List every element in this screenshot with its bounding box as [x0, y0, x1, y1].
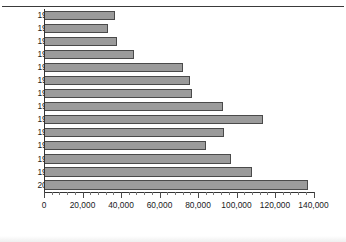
bar-row: 1994–95: [0, 100, 346, 113]
x-tick-major: [160, 192, 161, 198]
x-tick-minor: [90, 192, 91, 195]
x-tick-major: [237, 192, 238, 198]
x-tick-minor: [113, 192, 114, 195]
x-tick-major: [83, 192, 84, 198]
x-tick-minor: [298, 192, 299, 195]
bar-row: 2000–01: [0, 179, 346, 192]
x-tick-minor: [190, 192, 191, 195]
x-axis-ticks: 020,00040,00060,00080,000100,000120,0001…: [0, 192, 346, 214]
x-tick-label: 0: [42, 200, 47, 210]
x-tick-label: 120,000: [260, 200, 290, 210]
x-tick-major: [314, 192, 315, 198]
bar-row: 1987–88: [0, 9, 346, 22]
x-tick-label: 80,000: [185, 200, 211, 210]
x-tick-label: 40,000: [108, 200, 134, 210]
bar-row: 1997–98: [0, 139, 346, 152]
x-tick-minor: [206, 192, 207, 195]
bar-track: [44, 89, 192, 98]
bar-track: [44, 37, 117, 46]
bar-track: [44, 167, 252, 176]
bar-track: [44, 76, 190, 85]
bar-rows: 1987–881988–891989–901990–911991–921992–…: [0, 9, 346, 192]
x-tick-label: 20,000: [70, 200, 96, 210]
figure-container: Figure 1: Asylum applications, Great Bri…: [0, 0, 346, 242]
bar-row: 1988–89: [0, 22, 346, 35]
bar: [44, 11, 115, 20]
x-tick-minor: [152, 192, 153, 195]
bar-track: [44, 102, 223, 111]
x-tick-major: [121, 192, 122, 198]
bar: [44, 154, 231, 163]
x-tick-major: [275, 192, 276, 198]
x-tick-label: 100,000: [221, 200, 251, 210]
bar: [44, 180, 308, 189]
x-tick-minor: [252, 192, 253, 195]
bar: [44, 89, 192, 98]
x-tick-minor: [290, 192, 291, 195]
x-tick-minor: [67, 192, 68, 195]
x-tick-major: [44, 192, 45, 198]
bar: [44, 50, 134, 59]
bar-track: [44, 115, 263, 124]
x-tick-label: 60,000: [147, 200, 173, 210]
bar: [44, 115, 263, 124]
bar: [44, 141, 206, 150]
x-tick-minor: [59, 192, 60, 195]
x-tick-minor: [167, 192, 168, 195]
x-tick-minor: [183, 192, 184, 195]
x-tick-minor: [283, 192, 284, 195]
bar: [44, 37, 117, 46]
x-tick-minor: [221, 192, 222, 195]
bar-row: 1993–94: [0, 87, 346, 100]
bar-row: 1998–99: [0, 153, 346, 166]
value-axis-line: [44, 9, 45, 192]
x-tick-label: 140,000: [298, 200, 328, 210]
x-tick-minor: [229, 192, 230, 195]
x-tick-minor: [136, 192, 137, 195]
bar-row: 1992–93: [0, 74, 346, 87]
bar-row: 1999–00: [0, 166, 346, 179]
bar-track: [44, 180, 308, 189]
x-tick-minor: [129, 192, 130, 195]
x-tick-minor: [106, 192, 107, 195]
bar-row: 1995–96: [0, 113, 346, 126]
bar-track: [44, 50, 134, 59]
x-tick-minor: [98, 192, 99, 195]
bar-row: 1989–90: [0, 35, 346, 48]
x-tick-minor: [306, 192, 307, 195]
bar-track: [44, 128, 224, 137]
bar: [44, 63, 183, 72]
scan-artifact: [0, 236, 346, 242]
x-tick-minor: [175, 192, 176, 195]
x-tick-major: [198, 192, 199, 198]
title-divider-rule: [2, 6, 344, 7]
bar-track: [44, 154, 231, 163]
bar: [44, 102, 223, 111]
bar-track: [44, 141, 206, 150]
bar-track: [44, 11, 115, 20]
bar-row: 1990–91: [0, 48, 346, 61]
x-tick-minor: [260, 192, 261, 195]
bar: [44, 128, 224, 137]
bar: [44, 24, 108, 33]
x-tick-minor: [213, 192, 214, 195]
x-tick-minor: [267, 192, 268, 195]
bar: [44, 76, 190, 85]
bar-chart-plot-area: 1987–881988–891989–901990–911991–921992–…: [0, 9, 346, 214]
bar: [44, 167, 252, 176]
bar-row: 1991–92: [0, 61, 346, 74]
x-tick-minor: [52, 192, 53, 195]
x-tick-minor: [244, 192, 245, 195]
bar-row: 1996–97: [0, 126, 346, 139]
x-tick-minor: [75, 192, 76, 195]
bar-track: [44, 24, 108, 33]
x-tick-minor: [144, 192, 145, 195]
bar-track: [44, 63, 183, 72]
